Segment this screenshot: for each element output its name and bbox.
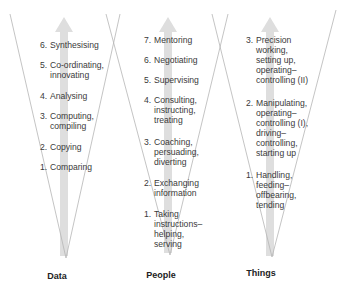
label-people: People [131, 270, 191, 280]
data-item-1: 1.Comparing [40, 162, 92, 172]
people-item-4: 4.Consulting, instructing, treating [144, 95, 197, 125]
people-item-1: 1.Taking instructions– helping, serving [144, 209, 202, 249]
things-item-3: 3.Precision working, setting up, operati… [246, 35, 308, 85]
data-item-5: 5.Co-ordinating, innovating [40, 60, 104, 80]
people-item-2: 2.Exchanging information [144, 178, 199, 198]
data-item-2: 2.Copying [40, 142, 82, 152]
people-item-7: 7.Mentoring [144, 35, 192, 45]
things-item-2: 2.Manipulating, operating– controlling (… [246, 98, 308, 158]
data-item-4: 4.Analysing [40, 91, 87, 101]
data-item-6: 6.Synthesising [40, 40, 99, 50]
people-item-6: 6.Negotiating [144, 55, 197, 65]
people-item-3: 3.Coaching, persuading, diverting [144, 137, 199, 167]
people-item-5: 5.Supervising [144, 75, 199, 85]
label-things: Things [231, 268, 291, 278]
data-item-3: 3.Computing, compiling [40, 111, 94, 131]
things-item-1: 1.Handling, feeding– offbearing, tending [246, 170, 296, 210]
label-data: Data [27, 271, 87, 281]
